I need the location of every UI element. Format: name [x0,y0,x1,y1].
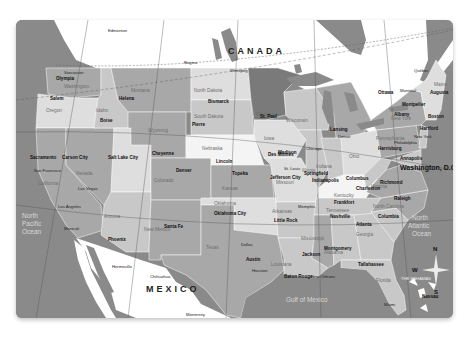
city-montreal: Montreal [400,88,416,93]
capital-lincoln: Lincoln [216,159,233,164]
capital-little-rock: Little Rock [274,218,298,223]
capital-salem: Salem [50,96,64,101]
state-label-nebraska: Nebraska [202,146,223,151]
capital-madison: Madison [278,150,297,155]
compass-west: W [412,267,418,273]
country-label-canada: CANADA [228,46,285,56]
capital-sacramento: Sacramento [30,155,56,160]
capital-frankfort: Frankfort [334,200,355,205]
capital-montpelier: Montpelier [402,102,425,107]
state-label-georgia: Georgia [356,232,373,237]
capital-pierre: Pierre [192,122,205,127]
ocean-label-gulf: Gulf of Mexico [286,296,328,303]
state-label-mississippi: Mississippi [301,236,324,241]
state-label-california: California [38,181,59,186]
capital-augusta: Augusta [430,90,449,95]
capital-santa-fe: Santa Fe [164,224,184,229]
city-memphis: Memphis [298,204,315,209]
capital-springfield: Springfield [304,171,328,176]
capital-cheyenne: Cheyenne [152,151,174,156]
city-houston: Houston [252,268,268,273]
state-label-nevada: Nevada [76,171,93,176]
capital-helena: Helena [119,96,135,101]
capital-bismarck: Bismarck [208,99,229,104]
state-label-iowa: Iowa [264,136,274,141]
capital-albany: Albany [394,112,410,117]
city-miami: Miami [384,302,395,307]
state-label-oklahoma: Oklahoma [214,201,236,206]
capital-jackson: Jackson [302,252,321,257]
capital-oklahoma-city: Oklahoma City [214,211,247,216]
city-regina: Regina [184,60,198,65]
capital-columbia: Columbia [378,214,399,219]
capital-phoenix: Phoenix [108,237,126,242]
capital-richmond: Richmond [380,180,403,185]
state-label-florida: Florida [376,278,391,283]
state-label-louisiana: Louisiana [271,262,292,267]
state-label-ohio: Ohio [349,154,359,159]
state-kansas[interactable] [211,165,274,198]
ocean-label-pacific-3: Ocean [22,228,42,235]
state-montana[interactable] [111,68,191,112]
state-label-colorado: Colorado [154,178,174,183]
capital-nashville: Nashville [330,214,351,219]
capital-baton-rouge: Baton Rouge [284,274,313,279]
city-philadelphia: Philadelphia [394,140,417,145]
city-mexicali: Mexicali [64,226,79,231]
state-label-south-dakota: South Dakota [194,114,223,119]
ocean-label-pacific-1: North [22,212,38,219]
city-san-francisco: San Francisco [34,168,61,173]
capital-boston: Boston [428,114,444,119]
capital-topeka: Topeka [232,171,248,176]
capital-annapolis: Annapolis [400,156,423,161]
city-monterrey: Monterrey [186,312,206,317]
state-label-north-dakota: North Dakota [194,88,223,93]
capital-harrisburg: Harrisburg [378,146,402,151]
city-los-angeles: Los Angeles [58,204,81,209]
capital-st-paul: St. Paul [260,114,277,119]
state-label-idaho: Idaho [96,108,108,113]
capital-hartford: Hartford [420,126,438,131]
state-label-washington: Washington [64,84,89,89]
capital-austin: Austin [246,257,260,262]
capital-indianapolis: Indianapolis [312,178,339,183]
state-label-north-carolina: North Carolina [373,204,404,209]
city-edmonton: Edmonton [108,28,128,33]
capital-carson-city: Carson City [62,155,88,160]
capital-atlanta: Atlanta [356,222,372,227]
capital-salt-lake-city: Salt Lake City [108,155,139,160]
capital-raleigh: Raleigh [394,196,411,201]
capital-lansing: Lansing [330,127,348,132]
us-map[interactable]: CANADA MEXICO North Pacific Ocean North … [16,20,453,318]
capital-columbus: Columbus [346,176,369,181]
city-dallas: Dallas [241,242,253,247]
city-st-louis: St. Louis [284,166,300,171]
capital-tallahassee: Tallahassee [358,262,384,267]
capital-washington-dc: Washington, D.C. [400,164,453,172]
state-label-indiana: Indiana [316,164,332,169]
state-label-oregon: Oregon [46,108,62,113]
country-label-mexico: MEXICO [146,284,200,294]
capital-ottawa: Ottawa [378,90,394,95]
ocean-label-atlantic-3: Ocean [412,230,432,237]
state-label-arizona: Arizona [104,214,121,219]
state-mississippi[interactable] [312,215,334,268]
state-label-missouri: Missouri [276,180,294,185]
ocean-label-pacific-2: Pacific [22,220,42,227]
city-las-vegas: Las Vegas [78,186,98,191]
capital-jefferson-city: Jefferson City [270,175,301,180]
state-label-maine: Maine [434,82,447,87]
ocean-label-atlantic-2: Atlantic [408,222,430,229]
city-new-orleans: New Orleans [311,274,335,279]
city-hermosillo: Hermosillo [112,264,132,269]
city-winnipeg: Winnipeg [230,68,248,73]
city-quebec: Québec [414,68,429,73]
city-new-york: New York [414,134,433,139]
capital-charleston: Charleston [356,186,380,191]
state-label-tennessee: Tennessee [326,208,350,213]
city-chicago: Chicago [306,146,322,151]
capital-boise: Boise [100,118,113,123]
city-chihuahua: Chihuahua [150,274,171,279]
state-label-kentucky: Kentucky [334,193,354,198]
capital-montgomery: Montgomery [324,246,352,251]
